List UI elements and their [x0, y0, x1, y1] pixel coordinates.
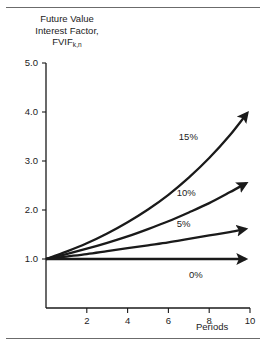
y-axis-tick-label: 1.0 — [12, 253, 38, 264]
series-curve-15pct — [46, 113, 247, 259]
series-label-0pct: 0% — [189, 269, 203, 280]
axes — [46, 63, 250, 308]
y-axis-tick-label: 2.0 — [12, 204, 38, 215]
series-curves — [46, 113, 247, 259]
y-axis-tick-label: 3.0 — [12, 155, 38, 166]
y-axis-tick-label: 4.0 — [12, 106, 38, 117]
x-axis-tick-label: 2 — [77, 315, 97, 326]
plot-area — [0, 0, 266, 352]
series-curve-5pct — [46, 229, 246, 259]
x-axis-title: Periods — [196, 321, 228, 332]
x-axis-tick-label: 6 — [158, 315, 178, 326]
series-label-5pct: 5% — [177, 218, 191, 229]
y-axis-tick-label: 5.0 — [12, 57, 38, 68]
series-label-15pct: 15% — [179, 131, 198, 142]
x-axis-ticks — [87, 308, 250, 313]
x-axis-tick-label: 4 — [118, 315, 138, 326]
series-label-10pct: 10% — [177, 187, 196, 198]
x-axis-tick-label: 10 — [240, 315, 260, 326]
figure-container: Future Value Interest Factor, FVIFk,n 1.… — [0, 0, 266, 352]
